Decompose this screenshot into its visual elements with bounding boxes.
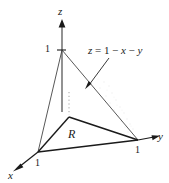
- equation-term-x: x: [121, 44, 126, 56]
- plane-triangle: [38, 50, 138, 152]
- z-axis: [59, 19, 66, 112]
- figure-canvas: z 1 y 1 x 1 R z=1−x−y: [0, 0, 169, 183]
- tetrahedron-diagram: [0, 0, 169, 183]
- equation-minus-1: −: [112, 44, 118, 56]
- z-axis-label: z: [58, 6, 62, 17]
- x-tick-label-one: 1: [35, 158, 40, 168]
- x-axis-label: x: [8, 170, 13, 181]
- equation-term-y: y: [138, 44, 143, 56]
- plane-equation-label: z=1−x−y: [88, 45, 143, 56]
- equation-term-one: 1: [104, 44, 110, 56]
- y-axis: [138, 135, 160, 140]
- y-tick-label-one: 1: [135, 145, 140, 155]
- region-label-r: R: [68, 128, 75, 140]
- equation-equals: =: [95, 44, 101, 56]
- plane-shading: [98, 79, 134, 133]
- equation-lhs: z: [88, 44, 92, 56]
- equation-minus-2: −: [129, 44, 135, 56]
- y-axis-label: y: [158, 131, 163, 142]
- equation-callout-arrow: [85, 58, 109, 90]
- z-tick-label-one: 1: [45, 44, 50, 54]
